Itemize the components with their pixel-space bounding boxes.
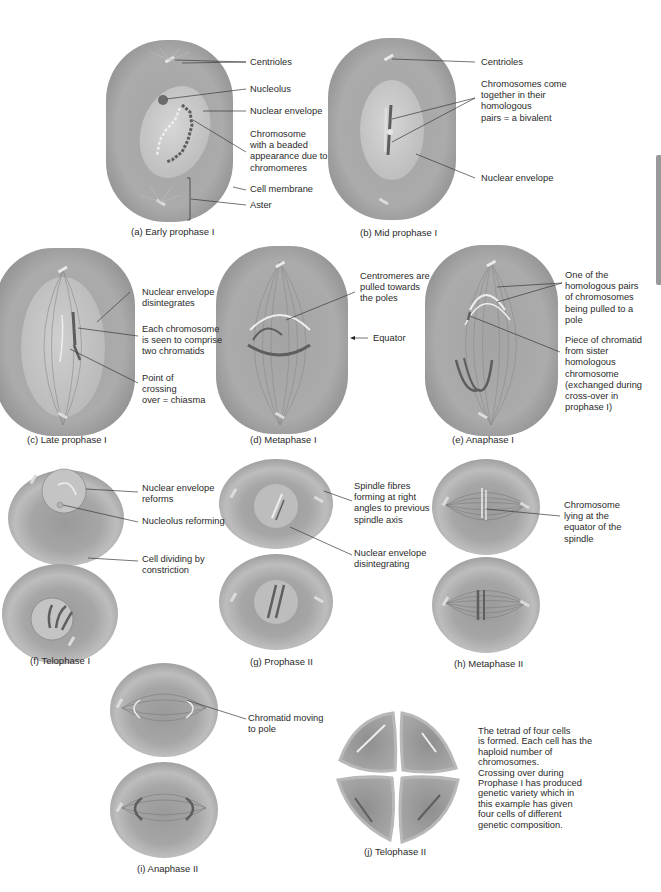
label-j-tetrad-description: The tetrad of four cells is formed. Each… bbox=[478, 726, 592, 830]
label-c-two-chromatids: Each chromosome is seen to comprise two … bbox=[142, 324, 222, 358]
caption-e: (e) Anaphase I bbox=[452, 434, 514, 445]
label-i-chromatid-moving: Chromatid moving to pole bbox=[248, 713, 323, 735]
cell-prophase-ii bbox=[219, 459, 333, 650]
caption-d: (d) Metaphase I bbox=[250, 434, 317, 445]
cell-anaphase-i bbox=[425, 245, 558, 436]
caption-h: (h) Metaphase II bbox=[454, 658, 523, 669]
cell-anaphase-ii bbox=[110, 663, 218, 858]
label-f-nucleolus-reforming: Nucleolus reforming bbox=[142, 516, 225, 527]
caption-g: (g) Prophase II bbox=[250, 656, 313, 667]
cell-late-prophase-i bbox=[0, 248, 135, 436]
caption-c: (c) Late prophase I bbox=[27, 434, 107, 445]
caption-a: (a) Early prophase I bbox=[131, 226, 214, 237]
label-a-nuclear-envelope: Nuclear envelope bbox=[250, 106, 322, 117]
cell-telophase-i bbox=[2, 469, 124, 664]
cell-metaphase-i bbox=[216, 246, 348, 434]
caption-i: (i) Anaphase II bbox=[137, 863, 198, 874]
label-a-cell-membrane: Cell membrane bbox=[250, 184, 313, 195]
cell-telophase-ii bbox=[338, 713, 458, 842]
label-g-envelope-disintegrating: Nuclear envelope disintegrating bbox=[354, 548, 426, 570]
label-c-chiasma: Point of crossing over = chiasma bbox=[142, 373, 205, 407]
chapter-side-tab bbox=[656, 155, 661, 285]
label-c-envelope-disintegrates: Nuclear envelope disintegrates bbox=[142, 287, 214, 309]
label-a-aster: Aster bbox=[250, 200, 272, 211]
caption-j: (j) Telophase II bbox=[364, 846, 426, 857]
label-f-envelope-reforms: Nuclear envelope reforms bbox=[142, 483, 214, 505]
label-a-chromosome: Chromosome with a beaded appearance due … bbox=[250, 129, 328, 174]
caption-f: (f) Telophase I bbox=[30, 655, 90, 666]
label-e-homologous-pair: One of the homologous pairs of chromosom… bbox=[565, 270, 638, 326]
label-d-centromeres: Centromeres are pulled towards the poles bbox=[360, 271, 430, 305]
label-f-constriction: Cell dividing by constriction bbox=[142, 554, 205, 576]
label-g-spindle-fibres: Spindle fibres forming at right angles t… bbox=[354, 481, 429, 526]
caption-b: (b) Mid prophase I bbox=[360, 227, 437, 238]
label-d-equator: Equator bbox=[373, 333, 406, 344]
label-b-bivalent: Chromosomes come together in their homol… bbox=[481, 79, 567, 124]
cell-metaphase-ii bbox=[432, 459, 540, 653]
label-a-nucleolus: Nucleolus bbox=[250, 84, 291, 95]
cell-early-prophase-i bbox=[106, 40, 233, 222]
label-h-chromosome-equator: Chromosome lying at the equator of the s… bbox=[564, 500, 621, 545]
label-a-centrioles: Centrioles bbox=[250, 57, 292, 68]
label-e-chromatid-piece: Piece of chromatid from sister homologou… bbox=[565, 335, 642, 413]
label-b-centrioles: Centrioles bbox=[481, 57, 523, 68]
label-b-nuclear-envelope: Nuclear envelope bbox=[481, 173, 553, 184]
cell-mid-prophase-i bbox=[328, 38, 456, 220]
